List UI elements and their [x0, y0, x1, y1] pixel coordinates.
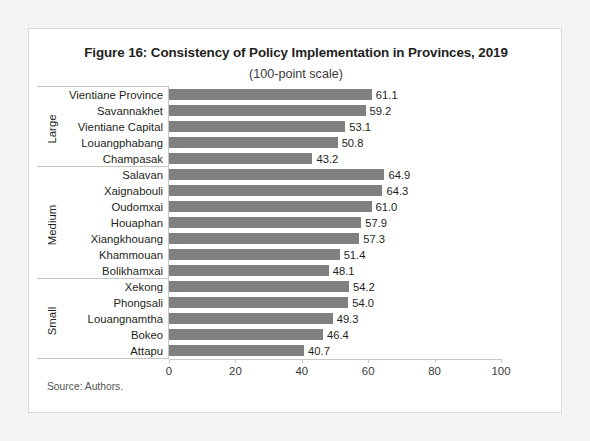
category-label: Vientiane Province [69, 87, 163, 104]
group-label-text: Small [46, 307, 58, 335]
figure-page: Figure 16: Consistency of Policy Impleme… [0, 0, 590, 441]
x-axis-tick [169, 359, 170, 363]
bar [169, 329, 323, 340]
bar-value-label: 48.1 [333, 266, 355, 277]
bar-value-label: 64.3 [386, 186, 408, 197]
group-separator [37, 358, 169, 359]
x-axis-tick-label: 60 [362, 365, 375, 377]
x-axis-tick-label: 80 [428, 365, 441, 377]
bar-value-label: 61.0 [376, 202, 398, 213]
bar-value-label: 43.2 [316, 154, 338, 165]
figure-subtitle: (100-point scale) [29, 67, 563, 81]
bar-value-label: 40.7 [308, 346, 330, 357]
bar-value-label: 51.4 [344, 250, 366, 261]
category-label: Bokeo [131, 327, 163, 344]
bar-value-label: 53.1 [349, 122, 371, 133]
category-label: Xekong [125, 279, 163, 296]
bar [169, 121, 345, 132]
bar-value-label: 61.1 [376, 90, 398, 101]
category-label: Louangphabang [81, 135, 163, 152]
x-axis-tick [235, 359, 236, 363]
x-axis-line [169, 359, 501, 360]
category-label: Oudomxai [112, 199, 164, 216]
x-axis-tick [501, 359, 502, 363]
x-axis-tick [368, 359, 369, 363]
category-label: Louangnamtha [88, 311, 163, 328]
category-label: Xiangkhouang [91, 231, 163, 248]
x-axis-tick-label: 40 [295, 365, 308, 377]
bar [169, 249, 340, 260]
figure-title: Figure 16: Consistency of Policy Impleme… [29, 45, 563, 60]
bar [169, 281, 349, 292]
source-note: Source: Authors. [47, 381, 123, 392]
category-label: Vientiane Capital [78, 119, 163, 136]
bar-value-label: 54.2 [353, 282, 375, 293]
bar [169, 265, 329, 276]
bar [169, 297, 348, 308]
bar-value-label: 57.9 [365, 218, 387, 229]
category-label: Savannakhet [97, 103, 163, 120]
bar [169, 105, 366, 116]
bar-value-label: 54.0 [352, 298, 374, 309]
bar-chart: LargeMediumSmall Vientiane ProvinceSavan… [37, 87, 555, 377]
category-rows: Vientiane ProvinceSavannakhetVientiane C… [63, 87, 169, 359]
group-separator [37, 86, 169, 87]
bar [169, 153, 312, 164]
group-label-medium: Medium [41, 169, 63, 281]
x-axis-tick-label: 0 [166, 365, 172, 377]
bar [169, 201, 372, 212]
category-label: Phongsali [113, 295, 163, 312]
group-separator [37, 166, 169, 167]
group-label-small: Small [41, 281, 63, 361]
bar [169, 137, 338, 148]
bar [169, 313, 333, 324]
x-axis-tick [435, 359, 436, 363]
group-separator [37, 278, 169, 279]
bar [169, 345, 304, 356]
x-axis-tick [302, 359, 303, 363]
group-label-large: Large [41, 89, 63, 169]
bar [169, 233, 359, 244]
x-axis-tick-label: 100 [491, 365, 510, 377]
bar [169, 185, 382, 196]
category-label: Houaphan [111, 215, 163, 232]
bar-value-label: 49.3 [337, 314, 359, 325]
figure-frame: Figure 16: Consistency of Policy Impleme… [28, 28, 562, 413]
bar [169, 89, 372, 100]
bar [169, 169, 384, 180]
category-label: Xaignabouli [104, 183, 163, 200]
bar-value-label: 57.3 [363, 234, 385, 245]
bar-value-label: 46.4 [327, 330, 349, 341]
bar [169, 217, 361, 228]
category-label: Khammouan [99, 247, 163, 264]
bar-value-label: 59.2 [370, 106, 392, 117]
group-label-text: Medium [46, 205, 58, 246]
bar-value-label: 64.9 [388, 170, 410, 181]
bar-value-label: 50.8 [342, 138, 364, 149]
category-label-column: LargeMediumSmall Vientiane ProvinceSavan… [37, 87, 169, 359]
x-axis-tick-label: 20 [229, 365, 242, 377]
plot-area: 61.159.253.150.843.264.964.361.057.957.3… [169, 87, 529, 359]
category-label: Salavan [122, 167, 163, 184]
group-label-text: Large [46, 114, 58, 143]
group-label-column: LargeMediumSmall [41, 87, 63, 359]
